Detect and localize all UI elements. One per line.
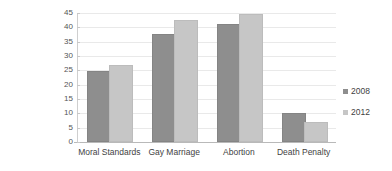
y-tick-mark — [77, 42, 80, 43]
bar-2012-gay-marriage — [174, 20, 198, 142]
chart-legend: 20082012 — [343, 84, 389, 126]
x-tick-label: Gay Marriage — [142, 147, 207, 157]
y-tick-mark — [77, 56, 80, 57]
bar-group — [282, 13, 326, 142]
bar-chart: Religion Gap (%) 454035302520151050 Mora… — [0, 0, 392, 171]
bar-group — [87, 13, 131, 142]
y-tick-label: 10 — [53, 109, 73, 117]
y-tick-label: 40 — [53, 23, 73, 31]
bar-2008-abortion — [217, 24, 241, 142]
bar-2008-moral-standards — [87, 71, 111, 142]
y-tick-label: 45 — [53, 9, 73, 17]
legend-swatch-icon — [343, 110, 348, 115]
x-tick-label: Death Penalty — [271, 147, 336, 157]
legend-item-2012[interactable]: 2012 — [343, 105, 389, 119]
y-tick-label: 5 — [53, 124, 73, 132]
y-tick-mark — [77, 113, 80, 114]
y-tick-mark — [77, 70, 80, 71]
y-tick-mark — [77, 27, 80, 28]
y-tick-mark — [77, 142, 80, 143]
y-tick-mark — [77, 13, 80, 14]
y-tick-label: 15 — [53, 95, 73, 103]
plot-area — [77, 13, 336, 142]
y-tick-label: 0 — [53, 138, 73, 146]
bar-2012-abortion — [239, 14, 263, 142]
legend-swatch-icon — [343, 89, 348, 94]
bar-group — [217, 13, 261, 142]
bar-2008-death-penalty — [282, 113, 306, 142]
y-tick-label: 25 — [53, 66, 73, 74]
y-tick-mark — [77, 85, 80, 86]
y-axis-tick-labels: 454035302520151050 — [51, 13, 73, 142]
x-tick-label: Moral Standards — [77, 147, 142, 157]
legend-label: 2008 — [351, 87, 370, 96]
y-tick-label: 20 — [53, 81, 73, 89]
y-tick-label: 35 — [53, 38, 73, 46]
y-tick-label: 30 — [53, 52, 73, 60]
bar-group — [152, 13, 196, 142]
legend-label: 2012 — [351, 108, 370, 117]
bar-2012-moral-standards — [109, 65, 133, 142]
x-tick-label: Abortion — [207, 147, 272, 157]
bar-2012-death-penalty — [304, 122, 328, 142]
x-axis-line — [74, 142, 336, 143]
y-tick-mark — [77, 128, 80, 129]
y-tick-mark — [77, 99, 80, 100]
legend-item-2008[interactable]: 2008 — [343, 84, 389, 98]
bar-2008-gay-marriage — [152, 34, 176, 142]
y-axis-line — [77, 13, 78, 142]
